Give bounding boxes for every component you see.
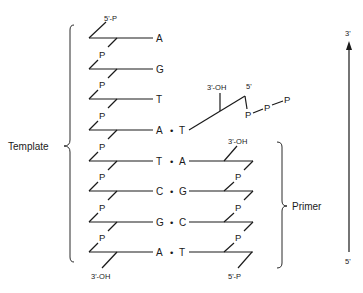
phosphate-label: P [99,202,105,213]
phosphate-label: P [99,110,105,121]
phosphate-label: P [235,232,241,243]
template-row-6: C [89,186,163,197]
phosphate-label: P [235,171,241,182]
primer-strand: 3'-OH A G C T P P P 5'-P [179,137,253,281]
phosphate-label: P [99,79,105,90]
template-label: Template [8,141,49,152]
incoming-5-label: 5' [246,82,252,91]
arrow-3-label: 3' [345,29,351,38]
template-row-2: G [89,64,164,75]
template-row-7: G [89,217,164,228]
template-base: A [156,125,163,136]
primer-brace [277,142,287,268]
phosphate-label: P [99,232,105,243]
template-base: G [156,217,164,228]
primer-phosphates: P P P [224,161,253,252]
primer-base: A [179,156,186,167]
template-base: A [156,33,163,44]
template-3oh-stub [102,252,117,268]
phosphate-label: P [235,202,241,213]
arrow-5-label: 5' [345,257,351,266]
primer-5p-stub [238,252,252,268]
direction-arrow: 3' 5' [345,29,352,266]
svg-text:•: • [170,247,173,258]
incoming-nucleotide: T 3'-OH 5' P P P [179,82,290,136]
primer-3oh-label: 3'-OH [228,137,247,146]
template-base: T [156,156,162,167]
incoming-base: T [179,125,185,136]
template-5p-label: 5'-P [104,14,117,23]
primer-row-3: C [179,217,253,228]
template-row-3: T [89,94,162,105]
primer-3oh-stub [224,146,237,161]
primer-row-1: A [179,156,253,167]
primer-5p-label: 5'-P [228,272,241,281]
base-pair-dots: • • • • • [170,125,173,258]
primer-label: Primer [292,201,322,212]
template-strand: 5'-P A G T A T C G [89,14,164,281]
template-3oh-label: 3'-OH [91,272,110,281]
template-5p-stub [89,22,106,38]
svg-text:•: • [170,186,173,197]
template-base: A [156,247,163,258]
phosphate-label: P [99,141,105,152]
incoming-3oh-label: 3'-OH [207,83,226,92]
template-base: G [156,64,164,75]
template-phosphates: P P P P P P P [89,38,117,252]
svg-text:•: • [170,156,173,167]
phosphate-label: P [99,49,105,60]
primer-base: T [179,247,185,258]
primer-row-4: T [179,247,253,258]
template-brace [64,25,74,262]
template-row-8: A [89,247,163,258]
primer-base: G [179,186,187,197]
primer-row-2: G [179,186,253,197]
template-row-4: A [89,125,163,136]
template-row-1: A [89,33,163,44]
triphosphate-p1: P [245,109,251,120]
template-base: C [156,186,163,197]
svg-text:•: • [170,125,173,136]
triphosphate-p2: P [264,102,270,113]
phosphate-label: P [99,171,105,182]
triphosphate-p3: P [284,94,290,105]
template-base: T [156,94,162,105]
arrow-head-icon [346,41,352,50]
template-row-5: T [89,156,162,167]
primer-base: C [179,217,186,228]
dna-replication-diagram: 5'-P A G T A T C G [0,0,363,293]
svg-text:•: • [170,217,173,228]
